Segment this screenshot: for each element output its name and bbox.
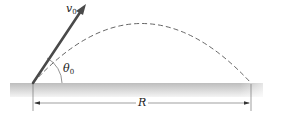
angle-symbol: θ — [63, 62, 70, 75]
range-label: R — [138, 97, 146, 108]
ground — [10, 83, 263, 97]
range-symbol: R — [138, 96, 146, 109]
angle-label: θ0 — [63, 63, 74, 76]
velocity-label: v0 — [66, 3, 77, 16]
angle-subscript: 0 — [70, 68, 74, 76]
velocity-subscript: 0 — [72, 8, 76, 16]
angle-arc — [47, 58, 62, 83]
